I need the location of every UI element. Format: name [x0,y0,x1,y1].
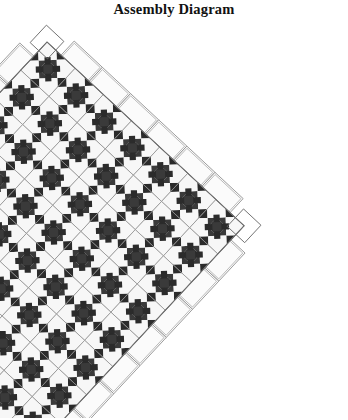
quilt-assembly-svg [0,18,348,418]
assembly-diagram-canvas [0,18,348,418]
page-title: Assembly Diagram [0,1,348,18]
quilt-root [0,18,271,418]
